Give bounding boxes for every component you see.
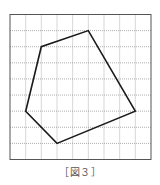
grid-polygon-figure	[0, 0, 160, 165]
figure-caption: ［図３］	[0, 164, 160, 179]
pentagon-shape	[26, 31, 136, 144]
